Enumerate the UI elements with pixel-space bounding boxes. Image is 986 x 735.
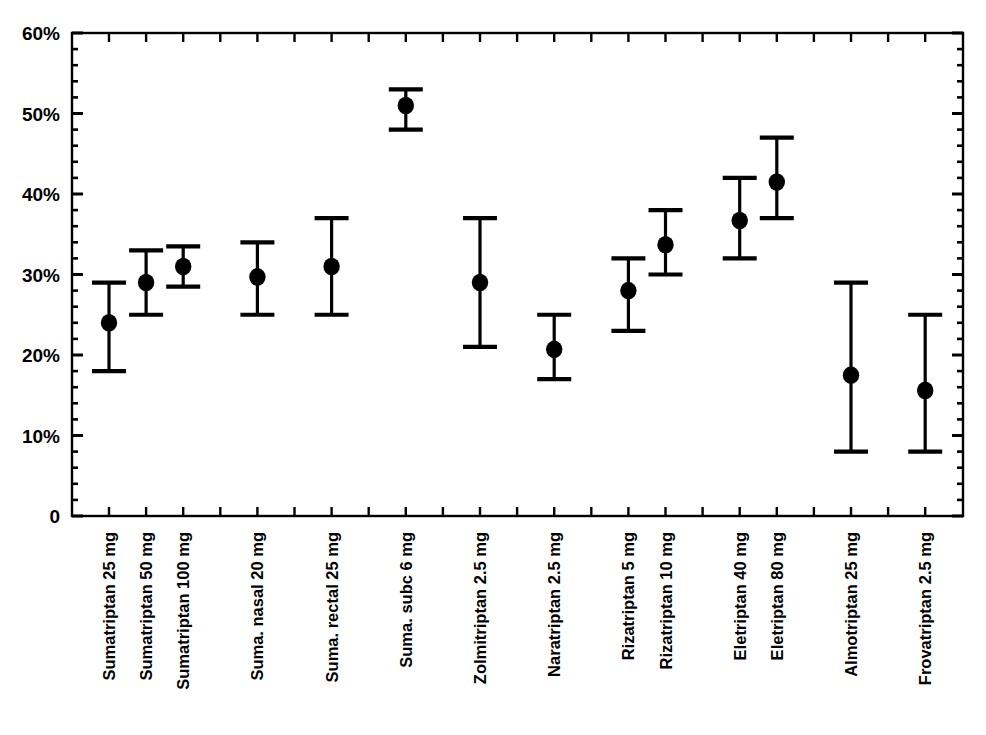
y-axis-tick-label: 40% xyxy=(22,184,60,205)
data-point-marker xyxy=(843,366,859,384)
x-axis-category-label: Naratriptan 2.5 mg xyxy=(545,532,563,677)
y-axis-tick-label: 0 xyxy=(49,506,60,527)
data-point-group xyxy=(760,138,794,219)
data-point-marker xyxy=(323,258,339,276)
data-point-group xyxy=(611,258,645,330)
x-axis-category-label: Sumatriptan 25 mg xyxy=(100,532,118,681)
data-point-group xyxy=(240,242,274,314)
data-point-marker xyxy=(472,274,488,292)
x-axis-category-label: Suma. rectal 25 mg xyxy=(323,532,341,682)
data-point-marker xyxy=(769,173,785,191)
data-point-marker xyxy=(101,314,117,332)
data-point-group xyxy=(537,315,571,379)
data-point-group xyxy=(463,218,497,347)
y-axis-tick-label: 50% xyxy=(22,104,60,125)
x-axis-category-label: Suma. nasal 20 mg xyxy=(248,532,266,681)
plot-frame xyxy=(72,33,963,516)
x-axis-category-label: Almotriptan 25 mg xyxy=(842,532,860,677)
data-point-marker xyxy=(657,236,673,254)
data-point-group xyxy=(166,246,200,286)
chart-canvas: 010%20%30%40%50%60%Sumatriptan 25 mgSuma… xyxy=(0,0,986,735)
data-point-marker xyxy=(546,341,562,359)
x-axis-category-label: Sumatriptan 50 mg xyxy=(137,532,155,681)
data-point-marker xyxy=(398,97,414,115)
y-axis-tick-label: 20% xyxy=(22,345,60,366)
data-point-marker xyxy=(249,268,265,286)
data-point-group xyxy=(834,283,868,452)
data-point-group xyxy=(723,178,757,259)
data-point-group xyxy=(92,283,126,372)
data-point-group xyxy=(315,218,349,315)
x-axis-category-label: Sumatriptan 100 mg xyxy=(174,532,192,690)
y-axis-tick-label: 60% xyxy=(22,23,60,44)
y-axis-tick-label: 10% xyxy=(22,426,60,447)
data-point-marker xyxy=(732,212,748,230)
data-point-group xyxy=(649,210,683,274)
data-point-group xyxy=(389,89,423,129)
x-axis-category-label: Rizatriptan 10 mg xyxy=(657,532,675,670)
data-point-marker xyxy=(175,258,191,276)
data-point-group xyxy=(129,250,163,314)
chart-figure: 010%20%30%40%50%60%Sumatriptan 25 mgSuma… xyxy=(0,0,986,735)
x-axis-category-label: Frovatriptan 2.5 mg xyxy=(916,532,934,685)
data-point-marker xyxy=(917,382,933,400)
data-point-marker xyxy=(138,274,154,292)
x-axis-category-label: Rizatriptan 5 mg xyxy=(619,532,637,660)
x-axis-category-label: Suma. subc 6 mg xyxy=(397,532,415,668)
data-point-group xyxy=(908,315,942,452)
x-axis-category-label: Eletriptan 40 mg xyxy=(731,532,749,660)
x-axis-category-label: Zolmitriptan 2.5 mg xyxy=(471,532,489,684)
y-axis-tick-label: 30% xyxy=(22,265,60,286)
x-axis-category-label: Eletriptan 80 mg xyxy=(768,532,786,660)
data-point-marker xyxy=(620,282,636,300)
